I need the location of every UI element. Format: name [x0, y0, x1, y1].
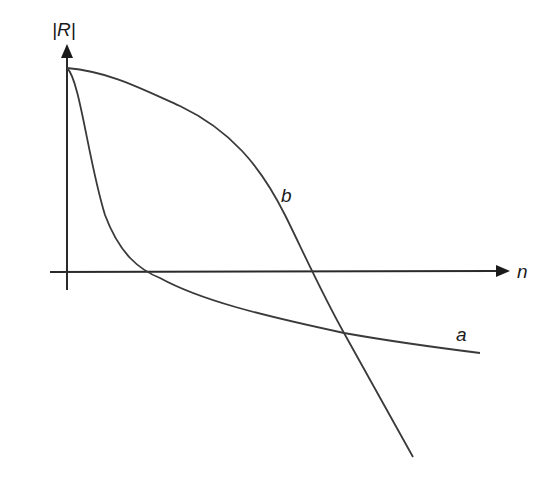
curve-b-label: b [281, 186, 292, 205]
x-axis-arrow-icon [496, 265, 510, 277]
y-axis-label: |R| [52, 20, 76, 39]
curve-a-label: a [456, 325, 467, 344]
curve-a [67, 68, 480, 353]
plot-svg [0, 0, 550, 477]
x-axis [50, 271, 496, 272]
y-axis-arrow-icon [61, 44, 73, 58]
curve-b [67, 68, 413, 457]
x-axis-label: n [517, 262, 528, 281]
diagram: |R| n a b [0, 0, 550, 477]
